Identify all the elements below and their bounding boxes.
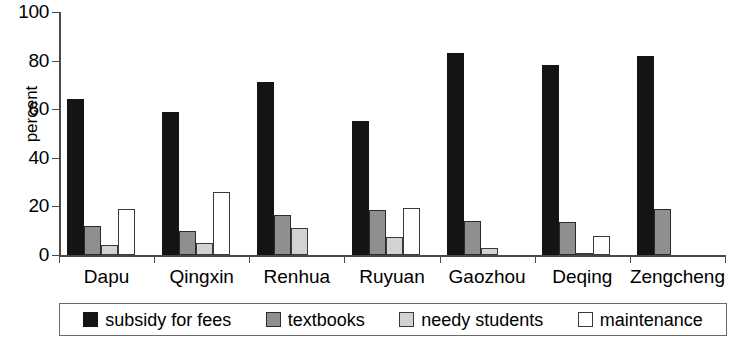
legend-item-subsidy-for-fees: subsidy for fees xyxy=(83,310,231,330)
bar-needy-students-gaozhou xyxy=(481,248,498,255)
y-axis-tick xyxy=(52,158,59,159)
bar-subsidy-for-fees-gaozhou xyxy=(447,53,464,255)
x-axis-category-label: Gaozhou xyxy=(440,266,535,288)
legend-swatch-icon xyxy=(83,312,98,327)
bar-textbooks-gaozhou xyxy=(464,221,481,255)
y-axis-tick xyxy=(52,255,59,256)
bar-group xyxy=(535,12,630,255)
bar-textbooks-dapu xyxy=(84,226,101,255)
bar-textbooks-ruyuan xyxy=(369,210,386,255)
y-axis-tick xyxy=(52,61,59,62)
x-axis-tick xyxy=(725,255,726,263)
y-axis-tick-label: 40 xyxy=(28,148,49,167)
chart-legend: subsidy for feestextbooksneedy studentsm… xyxy=(59,303,727,336)
bar-needy-students-ruyuan xyxy=(386,237,403,255)
legend-swatch-icon xyxy=(266,312,281,327)
x-axis-category-label: Qingxin xyxy=(154,266,249,288)
y-axis-tick xyxy=(52,206,59,207)
bar-group xyxy=(344,12,439,255)
bar-maintenance-ruyuan xyxy=(403,208,420,255)
y-axis-tick xyxy=(52,109,59,110)
legend-label: subsidy for fees xyxy=(105,310,231,330)
x-axis-tick xyxy=(630,255,631,263)
x-axis-tick xyxy=(59,255,60,263)
bar-subsidy-for-fees-zengcheng xyxy=(637,56,654,255)
legend-item-textbooks: textbooks xyxy=(266,310,365,330)
bar-group xyxy=(630,12,725,255)
bar-subsidy-for-fees-dapu xyxy=(67,99,84,255)
bar-maintenance-deqing xyxy=(593,236,610,255)
y-axis-tick-label: 60 xyxy=(28,99,49,118)
legend-label: needy students xyxy=(421,310,543,330)
bar-subsidy-for-fees-qingxin xyxy=(162,112,179,255)
bar-needy-students-qingxin xyxy=(196,243,213,255)
legend-item-maintenance: maintenance xyxy=(578,310,703,330)
bar-group xyxy=(440,12,535,255)
y-axis-tick-label: 80 xyxy=(28,51,49,70)
plot-area: 020406080100 xyxy=(59,12,725,255)
bar-subsidy-for-fees-deqing xyxy=(542,65,559,255)
bar-chart-figure: percent 020406080100 DapuQingxinRenhuaRu… xyxy=(0,0,735,340)
bar-textbooks-renhua xyxy=(274,215,291,255)
bar-textbooks-deqing xyxy=(559,222,576,255)
legend-label: maintenance xyxy=(600,310,703,330)
x-axis-category-label: Deqing xyxy=(535,266,630,288)
x-axis-category-label: Renhua xyxy=(249,266,344,288)
x-axis-tick xyxy=(440,255,441,263)
bar-subsidy-for-fees-renhua xyxy=(257,82,274,255)
y-axis-tick-label: 100 xyxy=(18,2,49,21)
x-axis-tick xyxy=(535,255,536,263)
x-axis-category-label: Dapu xyxy=(59,266,154,288)
legend-item-needy-students: needy students xyxy=(399,310,543,330)
x-axis-line xyxy=(59,255,725,257)
x-axis-tick xyxy=(249,255,250,263)
bar-textbooks-qingxin xyxy=(179,231,196,255)
y-axis-tick-label: 0 xyxy=(39,245,49,264)
legend-label: textbooks xyxy=(288,310,365,330)
x-axis-category-label: Zengcheng xyxy=(630,266,725,288)
bar-textbooks-zengcheng xyxy=(654,209,671,255)
bar-needy-students-renhua xyxy=(291,228,308,255)
bar-group xyxy=(249,12,344,255)
bar-needy-students-deqing xyxy=(576,253,593,255)
legend-swatch-icon xyxy=(399,312,414,327)
y-axis-tick-label: 20 xyxy=(28,197,49,216)
x-axis-tick xyxy=(154,255,155,263)
legend-swatch-icon xyxy=(578,312,593,327)
x-axis-tick xyxy=(344,255,345,263)
y-axis-tick xyxy=(52,12,59,13)
bar-maintenance-qingxin xyxy=(213,192,230,255)
x-axis-category-label: Ruyuan xyxy=(344,266,439,288)
bar-group xyxy=(59,12,154,255)
bar-needy-students-dapu xyxy=(101,245,118,255)
bar-subsidy-for-fees-ruyuan xyxy=(352,121,369,255)
bar-maintenance-dapu xyxy=(118,209,135,255)
bar-group xyxy=(154,12,249,255)
